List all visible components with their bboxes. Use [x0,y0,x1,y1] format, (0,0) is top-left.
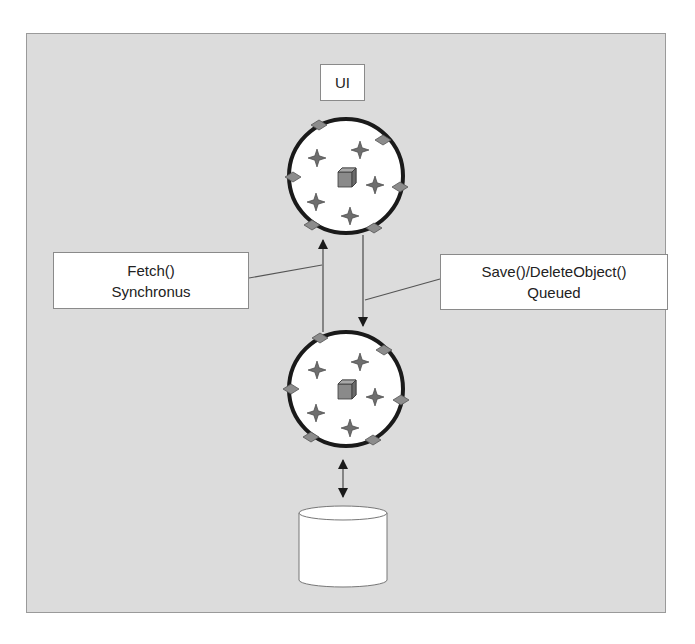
fetch-label-box: Fetch() Synchronus [53,252,249,309]
fetch-label-mode: Synchronus [111,281,190,302]
save-label-connector [365,279,440,300]
fetch-label-method: Fetch() [127,260,175,281]
ui-label-box: UI [320,64,365,101]
save-label-box: Save()/DeleteObject() Queued [440,254,668,310]
client-object-context [285,119,408,233]
server-object-context [283,332,409,446]
cube-icon [338,380,356,399]
fetch-label-connector [249,265,322,278]
cube-icon [338,168,356,187]
save-label-method: Save()/DeleteObject() [481,261,626,282]
database-icon [299,506,387,587]
save-label-mode: Queued [527,282,580,303]
ui-label: UI [335,72,350,93]
